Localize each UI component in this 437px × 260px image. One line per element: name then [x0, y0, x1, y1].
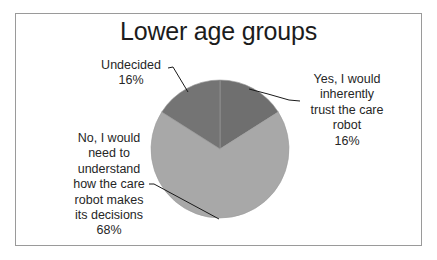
pie-slices	[151, 80, 289, 218]
leader-line-undecided	[168, 67, 188, 92]
data-label-no: No, I would need to understand how the c…	[66, 131, 152, 239]
data-label-yes: Yes, I would inherently trust the care r…	[298, 72, 396, 149]
data-label-undecided: Undecided 16%	[92, 58, 170, 89]
